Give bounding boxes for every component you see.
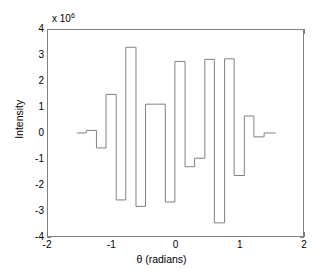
y-axis-tick-label: 3 <box>20 50 44 60</box>
x-axis-tick-mark <box>304 232 305 237</box>
x-axis-tick-label: -2 <box>32 240 62 250</box>
exponent-power: 6 <box>71 12 75 19</box>
y-axis-exponent-label: x 106 <box>52 12 75 24</box>
y-axis-tick-label: 4 <box>20 24 44 34</box>
exponent-prefix: x 10 <box>52 13 71 24</box>
x-axis-title: θ (radians) <box>0 254 323 265</box>
plot-area <box>47 29 304 237</box>
x-axis-tick-label: 1 <box>225 240 255 250</box>
y-axis-title: Intensity <box>14 64 25 174</box>
stairstep-line <box>77 47 276 223</box>
y-axis-tick-label: -2 <box>20 180 44 190</box>
x-axis-tick-mark <box>304 29 305 34</box>
y-axis-tick-mark <box>300 237 304 238</box>
x-axis-tick-label: -1 <box>96 240 126 250</box>
x-axis-tick-label: 2 <box>289 240 319 250</box>
y-axis-tick-label: -3 <box>20 206 44 216</box>
x-axis-tick-label: 0 <box>161 240 191 250</box>
stairstep-data-series <box>48 30 303 236</box>
y-axis-tick-mark <box>47 237 51 238</box>
intensity-vs-theta-chart: x 106 43210-1-2-3-4 -2-1012 Intensity θ … <box>0 0 323 277</box>
